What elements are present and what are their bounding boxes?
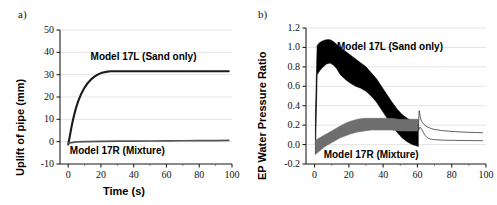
figure-container: a) Uplift of pipe (mm) Time (s) Model 17…: [0, 0, 497, 205]
y-tick-label: 0.8: [264, 61, 300, 72]
y-tick-label: 1.2: [264, 22, 300, 33]
x-tick-label: 100: [466, 169, 497, 180]
panel-a-series-1-annotation: Model 17R (Mixture): [61, 145, 173, 156]
y-tick-label: 50: [18, 24, 54, 35]
y-tick-label: 1.0: [264, 41, 300, 52]
y-tick-label: 0.2: [264, 119, 300, 130]
y-tick-label: 0: [18, 136, 54, 147]
y-tick-label: 10: [18, 113, 54, 124]
y-tick-label: 0.4: [264, 100, 300, 111]
panel-b-series-1-annotation: Model 17R (Mixture): [315, 149, 427, 160]
y-tick-label: 0.6: [264, 80, 300, 91]
y-tick-label: 30: [18, 69, 54, 80]
panel-b: b) EP Water Pressure Ratio Model 17L (Sa…: [248, 0, 497, 205]
panel-b-series-0-annotation: Model 17L (Sand only): [330, 41, 450, 52]
y-tick-label: 40: [18, 46, 54, 57]
y-tick-label: 0.0: [264, 139, 300, 150]
y-tick-label: 20: [18, 91, 54, 102]
y-tick-label: -10: [18, 158, 54, 169]
panel-a: a) Uplift of pipe (mm) Time (s) Model 17…: [0, 0, 248, 205]
x-tick-label: 100: [212, 169, 252, 180]
y-tick-label: -0.2: [264, 158, 300, 169]
panel-a-series-0-annotation: Model 17L (Sand only): [84, 51, 204, 62]
